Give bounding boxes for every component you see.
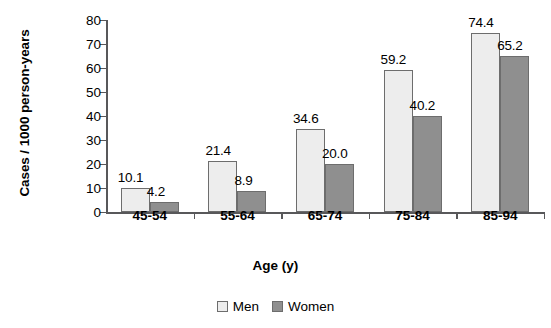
bar-value-label: 4.2 [147,184,165,199]
x-axis-tick-mark [456,212,457,219]
x-axis-category-label: 55-64 [220,208,255,223]
bar-men-55-64 [208,161,237,212]
bar-value-label: 34.6 [293,111,318,126]
bar-value-label: 10.1 [118,170,143,185]
y-axis-tick-label: 0 [93,205,101,220]
x-axis-tick-mark [281,212,282,219]
x-axis-title: Age (y) [0,258,551,273]
bar-value-label: 40.2 [410,98,435,113]
legend-item-men: Men [217,299,259,314]
bar-women-75-84 [413,116,442,212]
legend-item-women: Women [272,299,334,314]
x-axis-tick-mark [544,212,545,219]
bar-men-75-84 [384,70,413,212]
plot-area: 01020304050607080 10.14.221.48.934.620.0… [106,20,544,212]
bar-value-label: 8.9 [234,173,252,188]
y-axis-tick-label: 70 [86,37,101,52]
x-axis-tick-mark [369,212,370,219]
x-axis-category-label: 75-84 [395,208,430,223]
bar-value-label: 59.2 [381,52,406,67]
x-axis-category-label: 65-74 [308,208,343,223]
bar-value-label: 74.4 [468,15,493,30]
bar-value-label: 21.4 [205,143,230,158]
legend-swatch-icon [272,301,283,312]
y-axis-tick-label: 40 [86,109,101,124]
legend-label: Women [288,299,334,314]
legend-swatch-icon [217,301,228,312]
y-axis-tick-label: 50 [86,85,101,100]
bar-men-85-94 [471,33,500,212]
y-axis-line [106,20,108,212]
bar-men-65-74 [296,129,325,212]
x-axis-category-label: 45-54 [133,208,168,223]
y-axis-tick-label: 30 [86,133,101,148]
chart-legend: MenWomen [0,299,551,314]
y-axis-tick-label: 10 [86,181,101,196]
bar-value-label: 20.0 [322,146,347,161]
bar-women-85-94 [500,56,529,212]
bar-women-65-74 [325,164,354,212]
y-axis-tick-label: 20 [86,157,101,172]
bar-value-label: 65.2 [497,38,522,53]
y-axis-tick-label: 80 [86,13,101,28]
y-axis-title: Cases / 1000 person-years [12,0,36,228]
legend-label: Men [233,299,259,314]
x-axis-tick-mark [194,212,195,219]
y-axis-tick-label: 60 [86,61,101,76]
x-axis-category-label: 85-94 [483,208,518,223]
